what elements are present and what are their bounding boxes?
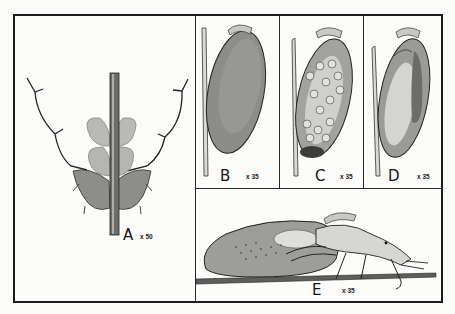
figure-d-label: D xyxy=(388,167,400,185)
egg-c-drawing xyxy=(280,16,364,189)
figure-c-label: C xyxy=(315,167,325,185)
figure-plate: A x 50 B x 35 C x xyxy=(13,14,443,303)
figure-d-magnification: x 35 xyxy=(417,173,430,180)
figure-a-panel: A x 50 xyxy=(15,16,196,301)
stem-leaf-drawing xyxy=(15,16,196,301)
figure-c-magnification: x 35 xyxy=(340,173,353,180)
figure-e-magnification: x 35 xyxy=(342,287,355,294)
figure-c-panel: C x 35 xyxy=(280,16,364,189)
figure-e-label: E xyxy=(312,281,321,299)
figure-e-panel: E x 35 xyxy=(196,189,441,301)
figure-b-panel: B x 35 xyxy=(196,16,280,189)
egg-d-drawing xyxy=(364,16,441,189)
figure-a-magnification: x 50 xyxy=(140,233,153,240)
figure-b-magnification: x 35 xyxy=(246,173,259,180)
figure-b-label: B xyxy=(220,167,230,185)
egg-b-drawing xyxy=(196,16,280,189)
figure-d-panel: D x 35 xyxy=(364,16,441,189)
figure-a-label: A xyxy=(123,226,133,244)
